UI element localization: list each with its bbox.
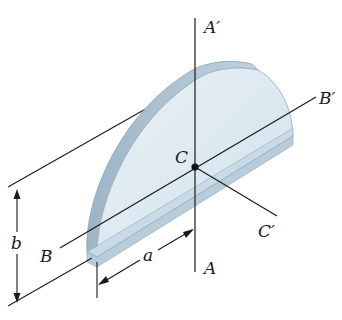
label-B: B — [39, 246, 53, 266]
label-C-prime: C′ — [258, 221, 275, 241]
diagram-canvas: A′ A B′ B C C′ a b — [0, 0, 342, 320]
label-A: A — [202, 258, 216, 278]
b-arrowhead-bottom — [14, 293, 21, 303]
label-B-prime: B′ — [318, 88, 335, 108]
centroid-point-C — [191, 163, 198, 170]
b-arrowhead-top — [14, 189, 21, 199]
label-dim-a: a — [143, 245, 153, 265]
a-arrowhead-left — [98, 276, 109, 285]
half-disk-axes-diagram: A′ A B′ B C C′ a b — [0, 0, 342, 320]
a-arrowhead-right — [183, 229, 194, 238]
label-C: C — [175, 147, 188, 167]
label-dim-b: b — [11, 233, 22, 253]
label-A-prime: A′ — [202, 17, 220, 37]
